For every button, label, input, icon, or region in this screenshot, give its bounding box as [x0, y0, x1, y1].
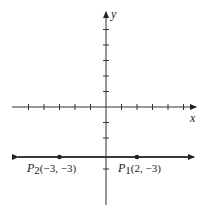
point-p1-label: P1(2, −3) [117, 161, 161, 176]
x-axis-label: x [189, 111, 196, 125]
point-p1 [135, 155, 140, 160]
point-p2 [57, 155, 62, 160]
point-p2-label: P2(−3, −3) [26, 161, 76, 176]
coordinate-plane: y x P2(−3, −3) P1(2, −3) [0, 0, 209, 217]
y-axis-label: y [110, 7, 117, 21]
